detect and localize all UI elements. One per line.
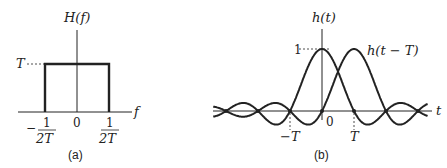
zero-dot xyxy=(256,109,260,113)
shifted-label: h(t − T) xyxy=(367,43,419,58)
origin-0-b: 0 xyxy=(326,115,334,129)
zero-dot xyxy=(224,109,228,113)
origin-0: 0 xyxy=(73,116,81,130)
figure: H(f) f T 0 − 1 2T 1 2T (a) h(t) t 1 0 −T… xyxy=(0,0,447,168)
caption-b: (b) xyxy=(314,148,329,162)
neg-sign: − xyxy=(26,121,36,135)
ylabel-Hf: H(f) xyxy=(63,10,90,25)
diagram-canvas: H(f) f T 0 − 1 2T 1 2T (a) h(t) t 1 0 −T… xyxy=(0,0,447,168)
caption-a: (a) xyxy=(68,148,83,162)
left-num: 1 xyxy=(43,116,51,130)
zero-dot xyxy=(352,109,356,113)
zero-dot xyxy=(416,109,420,113)
left-den: 2T xyxy=(35,131,54,146)
panel-a: H(f) f T 0 − 1 2T 1 2T (a) xyxy=(16,10,141,162)
ylabel-ht: h(t) xyxy=(312,10,336,25)
posT-label: T xyxy=(350,129,360,144)
zero-dot xyxy=(384,109,388,113)
right-num: 1 xyxy=(106,116,114,130)
negT-label: −T xyxy=(280,129,301,144)
zero-dot xyxy=(288,109,292,113)
panel-b: h(t) t 1 0 −T T h(t − T) (b) xyxy=(213,10,442,162)
curve-h-t-minus-T xyxy=(213,49,427,125)
level-T: T xyxy=(16,56,26,71)
xlabel-f: f xyxy=(133,104,141,119)
peak-1: 1 xyxy=(294,43,302,57)
right-den: 2T xyxy=(98,131,117,146)
zero-dot xyxy=(320,109,324,113)
xlabel-t: t xyxy=(436,103,442,118)
